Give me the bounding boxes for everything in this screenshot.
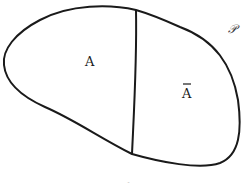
venn-diagram: A A 𝒫 Fig. 1 xyxy=(0,0,246,183)
figure-caption: Fig. 1 xyxy=(108,181,131,183)
region-complement-label: A xyxy=(181,86,192,101)
universe-boundary xyxy=(4,6,240,165)
region-a-label: A xyxy=(84,54,95,69)
partition-line xyxy=(132,10,136,154)
universe-label: 𝒫 xyxy=(228,22,240,36)
